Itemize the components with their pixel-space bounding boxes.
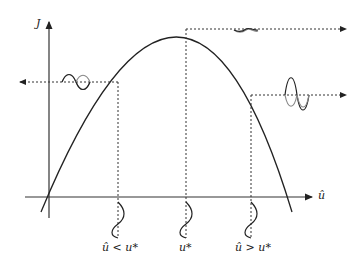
label-above-optimum: û > u* — [235, 241, 271, 254]
x-axis-label: û — [318, 189, 325, 202]
dotted-guides — [118, 29, 251, 238]
output-arrows — [20, 29, 346, 95]
label-optimum: u* — [179, 241, 192, 254]
input-dither-waves — [112, 202, 257, 238]
cost-curve — [41, 37, 292, 212]
label-below-optimum: û < u* — [102, 241, 138, 254]
y-axis-label: J — [36, 17, 40, 30]
extremum-seeking-diagram: J û û < u* u* û > u* — [0, 0, 359, 268]
right-output-wave — [285, 78, 309, 110]
